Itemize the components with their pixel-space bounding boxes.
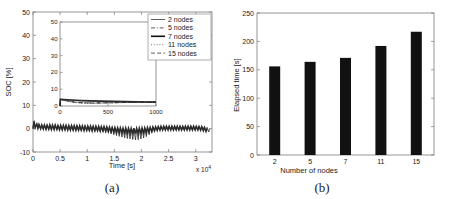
panel-a-legend-label-15-nodes: 15 nodes [168,50,197,57]
panel-a-inset-frame [60,22,156,106]
panel-b-x-axis-label: Number of nodes [280,166,338,175]
panel-b-y-tick-label: 50 [246,123,254,130]
panel-b-x-tick-label-15: 15 [412,158,420,165]
panel-a-y-tick-label: -10 [20,149,30,156]
panel-b-y-tick-label: 250 [242,10,254,17]
panel-a-legend-label-5-nodes: 5 nodes [168,24,193,31]
panel-a-inset-y-tick-label: 10 [51,86,58,92]
panel-a-x-axis-label: Time [s] [109,161,135,170]
panel-a-x-tick-label: 2 [140,155,144,162]
panel-b-y-tick-label: 100 [242,95,254,102]
panel-a-inset-y-tick-label: 20 [51,69,58,75]
panel-b-bars [269,32,422,155]
panel-a-y-tick-label: 40 [22,32,30,39]
panel-b-y-tick-label: 200 [242,38,254,45]
panel-b-x-tick-label-11: 11 [377,158,384,165]
panel-a-y-tick-label: 0 [26,125,30,132]
panel-a-legend-label-2-nodes: 2 nodes [168,16,193,23]
panel-a-x-exponent-label: x 104 [196,164,211,173]
panel-b-bar-2-nodes [269,66,280,155]
panel-a-x-tick-label: 0.5 [55,155,65,162]
panel-b-bar-11-nodes [375,46,386,155]
panel-a-legend-label-7-nodes: 7 nodes [168,33,193,40]
panel-b-bar-5-nodes [305,62,316,155]
panel-b-bar-7-nodes [340,58,351,155]
panel-b-x-tick-label-2: 2 [273,158,277,165]
panel-b-elapsed-time-plot: 0501001502002502571115 Number of nodes E… [225,0,449,199]
panel-a-traces [33,121,210,140]
figure-container: 00.511.522.53-1001020304050 050010000102… [0,0,449,199]
panel-b-svg: 0501001502002502571115 Number of nodes E… [225,0,449,199]
panel-a-inset-x-tick-label: 0 [58,109,62,115]
panel-a-inset-y-tick-label: 30 [51,53,58,59]
panel-a-x-tick-label: 2.5 [164,155,174,162]
panel-b-y-tick-label: 150 [242,66,254,73]
panel-a-y-tick-label: 50 [22,9,30,16]
panel-a-inset-x-tick-label: 500 [103,109,114,115]
panel-b-caption: (b) [314,180,329,195]
panel-a-svg: 00.511.522.53-1001020304050 050010000102… [0,0,225,199]
panel-b-bar-15-nodes [411,32,422,155]
panel-a-y-tick-label: 30 [22,55,30,62]
panel-a-legend: 2 nodes5 nodes7 nodes11 nodes15 nodes [148,14,211,60]
panel-a-legend-label-11-nodes: 11 nodes [168,41,197,48]
panel-b-y-axis-label: Elapsed time [s] [232,58,241,111]
panel-a-x-tick-label: 1 [85,155,89,162]
panel-b-x-tick-label-5: 5 [308,158,312,165]
panel-a-soc-plot: 00.511.522.53-1001020304050 050010000102… [0,0,225,199]
panel-b-x-tick-label-7: 7 [344,158,348,165]
panel-a-y-tick-label: 10 [22,102,30,109]
panel-a-inset-y-tick-label: 50 [51,19,58,25]
panel-a-inset: 0500100001020304050 [51,19,164,115]
panel-a-x-tick-label: 0 [31,155,35,162]
panel-b-y-tick-label: 0 [250,152,254,159]
panel-a-y-tick-label: 20 [22,79,30,86]
panel-a-trace-7-nodes [33,122,207,134]
panel-a-y-axis-label: SOC [%] [4,67,13,96]
panel-a-inset-y-tick-label: 40 [51,36,58,42]
panel-a-inset-x-tick-label: 1000 [149,109,163,115]
panel-a-caption: (a) [105,180,119,195]
panel-a-x-tick-label: 3 [194,155,198,162]
